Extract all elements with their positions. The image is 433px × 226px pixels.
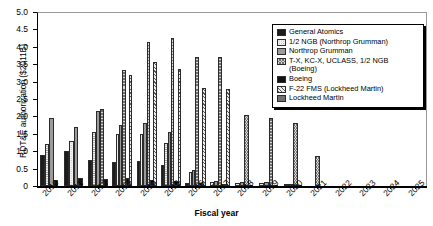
- legend-item: F-22 FMS (Lockheed Martin): [277, 85, 420, 94]
- legend-swatch-icon: [277, 86, 286, 93]
- x-axis-title: Fiscal year: [0, 208, 433, 218]
- legend-item: Lockheed Martin: [277, 94, 420, 103]
- plot-right-border: [426, 12, 427, 186]
- bar: [147, 42, 150, 186]
- legend-item-label: General Atomics: [289, 28, 343, 37]
- legend-item: 1/2 NGB (Northrop Grumman): [277, 38, 420, 47]
- bar: [195, 57, 198, 186]
- y-tick-label: 2.0: [2, 112, 28, 120]
- y-tick-label: 5.0: [2, 8, 28, 16]
- legend-swatch-icon: [277, 48, 286, 55]
- legend-swatch-icon: [277, 39, 286, 46]
- legend-item-label: Lockheed Martin: [289, 94, 344, 103]
- y-tick-label: 3.0: [2, 78, 28, 86]
- bar: [122, 70, 125, 186]
- legend-item: Boeing: [277, 75, 420, 84]
- legend-item-label: Northrop Grumman: [289, 47, 353, 56]
- bar: [153, 62, 156, 186]
- legend-item: T-X, KC-X, UCLASS, 1/2 NGB (Boeing): [277, 57, 420, 74]
- bar: [244, 115, 249, 186]
- y-tick-label: 2.5: [2, 95, 28, 103]
- bar: [100, 109, 104, 186]
- legend-item-label: Boeing: [289, 75, 312, 84]
- legend: General Atomics1/2 NGB (Northrop Grumman…: [272, 24, 424, 108]
- legend-item-label: T-X, KC-X, UCLASS, 1/2 NGB (Boeing): [289, 57, 388, 74]
- bar-chart: RDT&E authorization ($2011B) 00.51.01.52…: [0, 0, 433, 226]
- bar: [129, 75, 132, 186]
- legend-item: General Atomics: [277, 28, 420, 37]
- y-tick-label: 0.5: [2, 165, 28, 173]
- legend-swatch-icon: [277, 76, 286, 83]
- bar: [226, 89, 230, 186]
- legend-swatch-icon: [277, 58, 286, 65]
- legend-swatch-icon: [277, 29, 286, 36]
- bar: [218, 57, 222, 186]
- legend-item: Northrop Grumman: [277, 47, 420, 56]
- bar: [202, 88, 205, 186]
- y-tick-label: 4.0: [2, 43, 28, 51]
- bar: [178, 69, 181, 186]
- legend-item-label: F-22 FMS (Lockheed Martin): [289, 85, 383, 94]
- legend-item-label: 1/2 NGB (Northrop Grumman): [289, 38, 388, 47]
- legend-swatch-icon: [277, 95, 286, 102]
- y-tick-label: 3.5: [2, 60, 28, 68]
- y-tick-label: 1.0: [2, 147, 28, 155]
- bar: [49, 118, 54, 186]
- y-tick-label: 0: [2, 182, 28, 190]
- bar: [171, 38, 174, 186]
- y-tick-label: 1.5: [2, 130, 28, 138]
- bar: [269, 118, 274, 186]
- y-tick-label: 4.5: [2, 25, 28, 33]
